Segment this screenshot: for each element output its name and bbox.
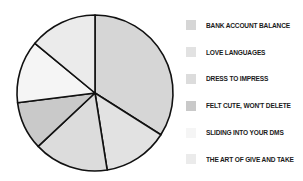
- legend-swatch: [186, 128, 196, 138]
- legend-item-love-languages: LOVE LANGUAGES: [186, 39, 303, 66]
- legend-label: DRESS TO IMPRESS: [206, 74, 268, 83]
- legend-label: THE ART OF GIVE AND TAKE: [206, 155, 294, 164]
- legend-swatch: [186, 101, 196, 111]
- legend-swatch: [186, 154, 196, 164]
- legend-swatch: [186, 20, 196, 30]
- legend-item-bank-account-balance: BANK ACCOUNT BALANCE: [186, 12, 303, 39]
- legend-item-art-of-give-and-take: THE ART OF GIVE AND TAKE: [186, 146, 303, 173]
- legend-swatch: [186, 74, 196, 84]
- legend-label: BANK ACCOUNT BALANCE: [206, 21, 290, 30]
- legend: BANK ACCOUNT BALANCE LOVE LANGUAGES DRES…: [186, 12, 303, 173]
- legend-label: FELT CUTE, WON'T DELETE: [206, 101, 291, 110]
- legend-label: SLIDING INTO YOUR DMS: [206, 128, 284, 137]
- legend-item-dress-to-impress: DRESS TO IMPRESS: [186, 66, 303, 93]
- pie-chart: [0, 0, 180, 181]
- legend-swatch: [186, 47, 196, 57]
- legend-item-felt-cute: FELT CUTE, WON'T DELETE: [186, 92, 303, 119]
- legend-item-sliding-into-dms: SLIDING INTO YOUR DMS: [186, 119, 303, 146]
- legend-label: LOVE LANGUAGES: [206, 48, 265, 57]
